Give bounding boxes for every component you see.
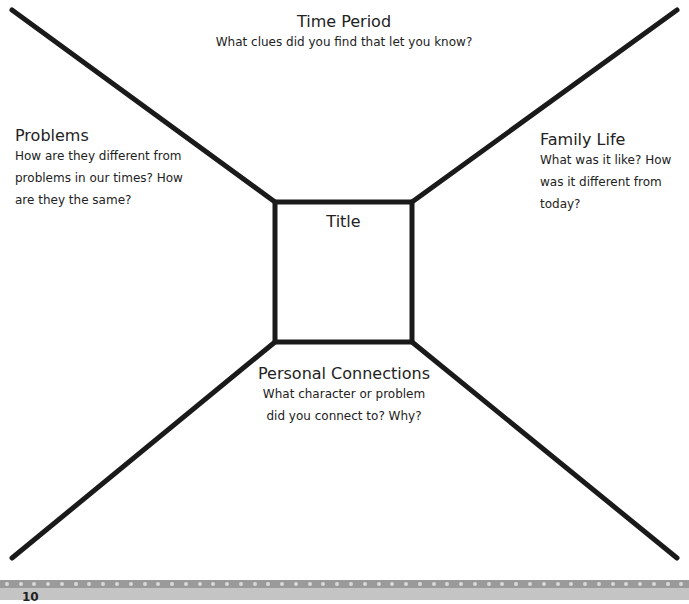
personal-connections-prompt-line: did you connect to? Why? [229, 405, 459, 427]
title-heading: Title [275, 212, 412, 231]
problems-prompt-line: problems in our times? How [15, 167, 215, 189]
family-life-prompt-line: What was it like? How [540, 149, 689, 171]
time-period-section: Time Period What clues did you find that… [194, 12, 494, 53]
personal-connections-section: Personal Connections What character or p… [229, 364, 459, 427]
family-life-prompt-line: today? [540, 193, 689, 215]
family-life-prompt-line: was it different from [540, 171, 689, 193]
time-period-prompt: What clues did you find that let you kno… [194, 31, 494, 53]
family-life-section: Family Life What was it like? How was it… [540, 130, 689, 215]
time-period-heading: Time Period [194, 12, 494, 31]
problems-prompt-line: How are they different from [15, 145, 215, 167]
personal-connections-prompt-line: What character or problem [229, 383, 459, 405]
problems-section: Problems How are they different from pro… [15, 126, 215, 211]
footer-dotted-strip [0, 580, 689, 588]
problems-prompt-line: are they the same? [15, 189, 215, 211]
family-life-heading: Family Life [540, 130, 689, 149]
personal-connections-heading: Personal Connections [229, 364, 459, 383]
problems-heading: Problems [15, 126, 215, 145]
title-section: Title [275, 212, 412, 231]
page-number: 10 [22, 590, 39, 604]
footer-band [0, 588, 689, 600]
